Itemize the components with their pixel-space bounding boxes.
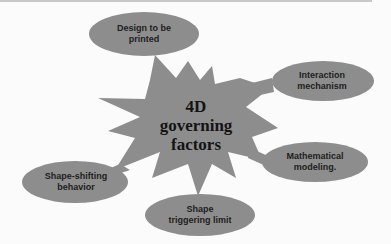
node-label-line: Mathematical [286, 151, 343, 162]
center-label-line: 4D [160, 97, 233, 116]
node-label-line: mechanism [297, 81, 347, 92]
node-trigger-label: Shape triggering limit [169, 204, 232, 226]
node-shifting-label: Shape-shifting behavior [45, 171, 108, 193]
node-label-line: Design to be [117, 23, 171, 34]
node-design-label: Design to be printed [117, 23, 171, 45]
node-label-line: printed [117, 34, 171, 45]
node-label-line: Shape-shifting [45, 171, 108, 182]
center-label-line: governing [160, 116, 233, 135]
node-label-line: modeling. [286, 162, 343, 173]
node-label-line: behavior [45, 182, 108, 193]
center-label-line: factors [160, 135, 233, 154]
node-math-label: Mathematical modeling. [286, 151, 343, 173]
node-label-line: triggering limit [169, 215, 232, 226]
node-interaction-label: Interaction mechanism [297, 70, 347, 92]
node-label-line: Interaction [297, 70, 347, 81]
center-label: 4D governing factors [160, 97, 233, 154]
node-label-line: Shape [169, 204, 232, 215]
